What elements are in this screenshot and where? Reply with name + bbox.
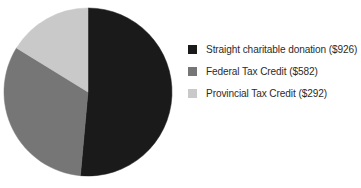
legend-label-federal-tax-credit: Federal Tax Credit ($582) xyxy=(206,65,318,77)
chart-legend: Straight charitable donation ($926) Fede… xyxy=(188,38,360,104)
pie-chart-figure: Straight charitable donation ($926) Fede… xyxy=(0,0,361,188)
legend-swatch-straight-charitable-donation xyxy=(188,45,197,54)
legend-swatch-provincial-tax-credit xyxy=(188,89,197,98)
legend-label-provincial-tax-credit: Provincial Tax Credit ($292) xyxy=(206,87,327,99)
legend-swatch-federal-tax-credit xyxy=(188,67,197,76)
legend-label-straight-charitable-donation: Straight charitable donation ($926) xyxy=(206,43,357,55)
pie-slice-group xyxy=(4,8,172,176)
legend-item-federal-tax-credit[interactable]: Federal Tax Credit ($582) xyxy=(188,60,360,82)
legend-item-provincial-tax-credit[interactable]: Provincial Tax Credit ($292) xyxy=(188,82,360,104)
legend-item-straight-charitable-donation[interactable]: Straight charitable donation ($926) xyxy=(188,38,360,60)
pie-slice[interactable] xyxy=(80,8,172,176)
